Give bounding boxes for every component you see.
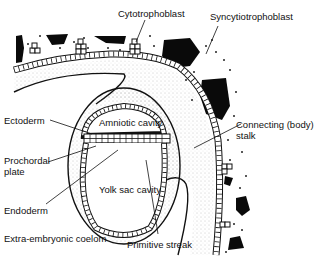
label-primitive-streak: Primitive streak xyxy=(127,239,192,250)
label-prochordal-2: plate xyxy=(4,166,25,177)
label-endoderm: Endoderm xyxy=(4,205,48,216)
label-prochordal-1: Prochordal xyxy=(4,155,50,166)
label-cytotrophoblast: Cytotrophoblast xyxy=(118,8,185,19)
label-syncytiotrophoblast: Syncytiotrophoblast xyxy=(210,11,293,22)
label-extra-embryonic-coelom: Extra-embryonic coelom xyxy=(4,233,107,244)
label-yolk-sac-cavity: Yolk sac cavity xyxy=(99,184,161,195)
label-connecting-stalk-2: stalk xyxy=(236,130,256,141)
embryo-diagram: Cytotrophoblast Syncytiotrophoblast Ecto… xyxy=(0,0,318,265)
label-amniotic-cavity: Amniotic cavity xyxy=(99,117,163,128)
label-connecting-stalk-1: Connecting (body) xyxy=(236,119,314,130)
label-ectoderm: Ectoderm xyxy=(4,115,45,126)
